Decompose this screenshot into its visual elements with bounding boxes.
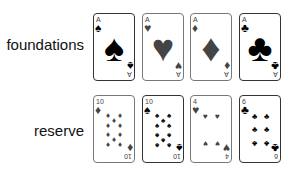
club-pip-icon: ♣ — [252, 126, 257, 134]
card-rank: 10 — [124, 153, 132, 160]
club-pip-icon: ♣ — [264, 139, 269, 147]
card-rank: A — [273, 71, 278, 78]
spade-pip-icon: ♠ — [161, 136, 165, 144]
spade-pip-icon: ♠ — [167, 122, 171, 130]
card-rank: A — [127, 71, 132, 78]
card-rank: 4 — [225, 153, 229, 160]
spade-icon: ♠ — [144, 104, 150, 116]
club-pip-icon: ♣ — [264, 113, 269, 121]
club-icon: ♣ — [241, 104, 249, 116]
spade-pip-icon: ♠ — [167, 112, 171, 120]
foundation-ace-of-diamonds[interactable]: A ♦ ♦ ♦ A — [190, 13, 232, 81]
card-rank: A — [176, 71, 181, 78]
diamond-pip-icon: ♦ — [118, 122, 122, 130]
club-pip-icon: ♣ — [252, 113, 257, 121]
reserve-four-of-hearts[interactable]: 4 ♥ ♥ ♥ ♥ ♥ ♥ 4 — [190, 95, 232, 163]
heart-icon: ♥ — [192, 104, 199, 116]
card-rank: 10 — [173, 153, 181, 160]
diamond-pip-icon: ♦ — [106, 112, 110, 120]
reserve-label: reserve — [0, 122, 84, 139]
diamond-pip-icon: ♦ — [106, 122, 110, 130]
spade-pip-icon: ♠ — [155, 112, 159, 120]
spade-pip-icon: ♠ — [155, 131, 159, 139]
diamond-icon: ♦ — [95, 104, 101, 116]
foundation-ace-of-hearts[interactable]: A ♥ ♥ ♥ A — [142, 13, 184, 81]
diamond-pip-icon: ♦ — [118, 131, 122, 139]
card-rank: 6 — [274, 153, 278, 160]
diamond-pip-icon: ♦ — [112, 117, 116, 125]
spade-pip-icon: ♠ — [155, 141, 159, 149]
reserve-ten-of-spades[interactable]: 10 ♠ ♠ ♠ ♠ ♠ ♠ ♠ ♠ ♠ ♠ ♠ ♠ 10 — [142, 95, 184, 163]
diamond-pip-icon: ♦ — [118, 112, 122, 120]
spade-pip-icon: ♠ — [155, 122, 159, 130]
club-pip-icon: ♣ — [264, 126, 269, 134]
heart-pip-icon: ♥ — [215, 139, 220, 147]
club-pip-icon: ♣ — [252, 139, 257, 147]
diamond-pip-icon: ♦ — [112, 136, 116, 144]
heart-pip-icon: ♥ — [215, 113, 220, 121]
diamond-pip-icon: ♦ — [106, 141, 110, 149]
reserve-six-of-clubs[interactable]: 6 ♣ ♣ ♣ ♣ ♣ ♣ ♣ ♣ 6 — [239, 95, 281, 163]
card-rank: A — [224, 71, 229, 78]
spade-pip-icon: ♠ — [167, 131, 171, 139]
heart-pip-icon: ♥ — [203, 139, 208, 147]
spade-pip-icon: ♠ — [167, 141, 171, 149]
foundation-ace-of-clubs[interactable]: A ♣ ♣ ♣ A — [239, 13, 281, 81]
heart-pip-icon: ♥ — [203, 113, 208, 121]
foundations-label: foundations — [0, 36, 84, 53]
diamond-pip-icon: ♦ — [118, 141, 122, 149]
foundation-ace-of-spades[interactable]: A ♠ ♠ ♠ A — [93, 13, 135, 81]
diamond-pip-icon: ♦ — [106, 131, 110, 139]
spade-pip-icon: ♠ — [161, 117, 165, 125]
reserve-ten-of-diamonds[interactable]: 10 ♦ ♦ ♦ ♦ ♦ ♦ ♦ ♦ ♦ ♦ ♦ ♦ 10 — [93, 95, 135, 163]
